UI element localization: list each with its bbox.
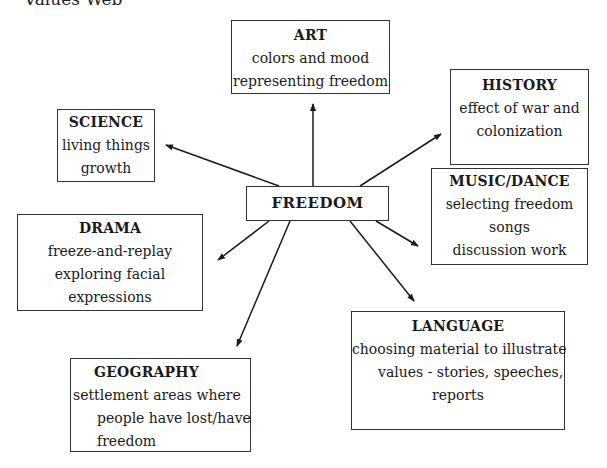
- node-text: exploring facial: [18, 263, 202, 286]
- node-drama: DRAMA freeze-and-replay exploring facial…: [17, 214, 203, 311]
- node-title: GEOGRAPHY: [71, 361, 250, 384]
- node-text: freeze-and-replay: [18, 240, 202, 263]
- node-title: LANGUAGE: [352, 315, 564, 338]
- node-science: SCIENCE living things growth: [57, 109, 155, 182]
- node-title: MUSIC/DANCE: [432, 170, 587, 193]
- node-title: HISTORY: [451, 74, 588, 97]
- arrow-to-science: [166, 145, 279, 186]
- node-text: people have lost/have: [71, 407, 250, 430]
- arrow-to-language: [350, 221, 414, 301]
- arrow-to-drama: [218, 221, 269, 260]
- node-art: ART colors and mood representing freedom: [231, 20, 390, 94]
- center-node-freedom: FREEDOM: [246, 186, 389, 221]
- arrow-to-music: [376, 221, 418, 246]
- node-text: selecting freedom: [432, 193, 587, 216]
- node-text: representing freedom: [232, 70, 389, 93]
- node-text: living things: [58, 134, 154, 157]
- node-text: effect of war and: [451, 97, 588, 120]
- node-text: growth: [58, 157, 154, 180]
- arrow-to-history: [360, 134, 441, 186]
- node-text: colonization: [451, 120, 588, 143]
- node-text: discussion work: [432, 239, 587, 262]
- node-music-dance: MUSIC/DANCE selecting freedom songs disc…: [431, 168, 588, 265]
- node-text: values - stories, speeches,: [352, 361, 564, 384]
- node-history: HISTORY effect of war and colonization: [450, 69, 589, 165]
- node-title: DRAMA: [18, 217, 202, 240]
- node-title: SCIENCE: [58, 111, 154, 134]
- node-text: freedom: [71, 430, 250, 453]
- node-language: LANGUAGE choosing material to illustrate…: [351, 311, 565, 430]
- node-title: ART: [232, 24, 389, 47]
- node-text: expressions: [18, 286, 202, 309]
- node-text: choosing material to illustrate: [352, 338, 564, 361]
- node-text: settlement areas where: [71, 384, 250, 407]
- node-text: songs: [432, 216, 587, 239]
- center-label: FREEDOM: [271, 192, 363, 215]
- node-text: reports: [352, 384, 564, 407]
- node-geography: GEOGRAPHY settlement areas where people …: [70, 358, 251, 452]
- node-text: colors and mood: [232, 47, 389, 70]
